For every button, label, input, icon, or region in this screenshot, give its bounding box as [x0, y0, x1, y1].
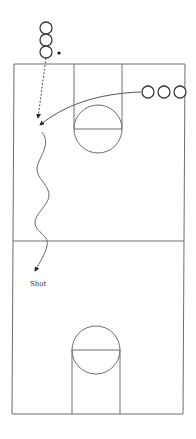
- ball-icon: [57, 51, 60, 54]
- cut-arrow: [40, 92, 141, 125]
- player-icon: [40, 22, 52, 34]
- right-player-line: [142, 86, 186, 98]
- player-icon: [174, 86, 186, 98]
- dribble-path: [35, 132, 49, 271]
- bottom-key: [72, 326, 120, 414]
- pass-arrow: [38, 58, 46, 118]
- sideline-left: [12, 64, 14, 414]
- player-icon: [40, 46, 52, 58]
- shot-label: Shot: [30, 280, 47, 288]
- player-icon: [40, 34, 52, 46]
- drill-diagram: Shot: [0, 0, 196, 439]
- player-icon: [158, 86, 170, 98]
- left-player-line: [40, 22, 61, 58]
- sideline-right: [183, 64, 185, 414]
- player-icon: [142, 86, 154, 98]
- top-key: [74, 64, 122, 153]
